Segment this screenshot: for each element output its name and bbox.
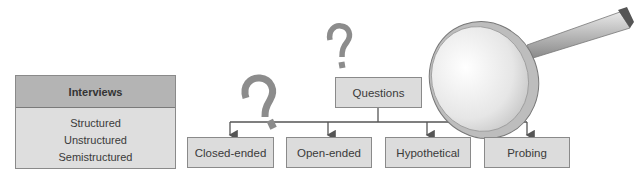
open-ended-box: Open-ended [286, 137, 372, 168]
questions-box: Questions [335, 77, 422, 108]
interviews-title: Interviews [16, 76, 175, 108]
closed-ended-box: Closed-ended [187, 137, 274, 168]
interview-type-structured: Structured [70, 115, 121, 132]
hypothetical-box: Hypothetical [385, 137, 471, 168]
magnifying-glass-icon [413, 6, 634, 154]
interview-type-unstructured: Unstructured [64, 132, 127, 149]
interviews-box: Interviews Structured Unstructured Semis… [15, 75, 176, 169]
question-mark-dot [267, 119, 277, 130]
probing-box: Probing [484, 137, 570, 168]
question-mark-icon [330, 26, 350, 57]
interview-type-semistructured: Semistructured [59, 149, 133, 166]
question-mark-icon [245, 78, 273, 117]
question-mark-dot [339, 62, 346, 69]
interview-types-list: Structured Unstructured Semistructured [16, 108, 175, 166]
